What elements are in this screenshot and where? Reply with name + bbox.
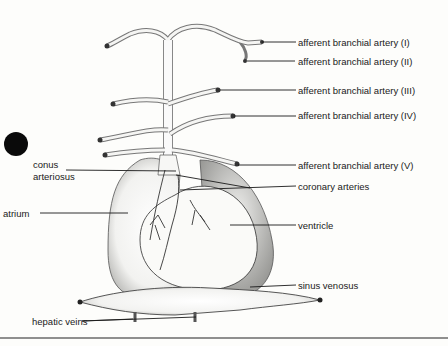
marker-dot xyxy=(4,132,28,156)
label-arteriosus: arteriosus xyxy=(33,171,75,182)
branchial-arteries xyxy=(100,26,262,175)
label-afferent-branchial-artery-4: afferent branchial artery (IV) xyxy=(298,110,416,121)
label-atrium: atrium xyxy=(3,208,29,219)
label-coronary-arteries: coronary arteries xyxy=(298,181,369,192)
label-sinus-venosus: sinus venosus xyxy=(298,280,358,291)
sinus-venosus-shape xyxy=(80,287,320,315)
label-afferent-branchial-artery-2: afferent branchial artery (II) xyxy=(298,56,412,67)
label-afferent-branchial-artery-1: afferent branchial artery (I) xyxy=(298,37,410,48)
label-ventricle: ventricle xyxy=(298,220,333,231)
label-conus: conus xyxy=(33,159,58,170)
label-afferent-branchial-artery-3: afferent branchial artery (III) xyxy=(298,85,415,96)
label-hepatic-veins: hepatic veins xyxy=(32,316,87,327)
label-afferent-branchial-artery-5: afferent branchial artery (V) xyxy=(298,160,413,171)
